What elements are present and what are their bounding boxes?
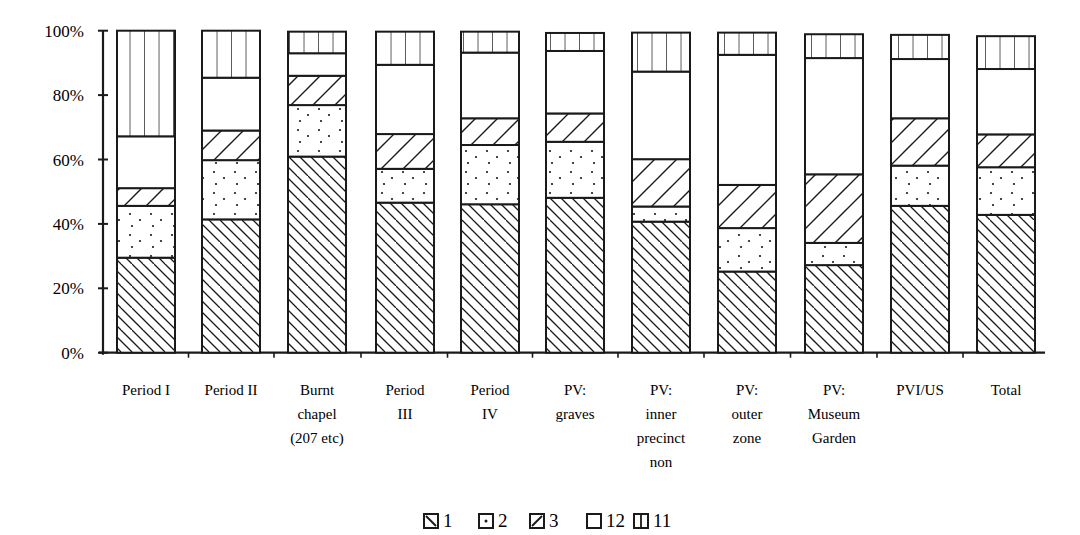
- bar-segment-3: [376, 134, 434, 169]
- y-tick-label: 80%: [53, 86, 84, 105]
- bar-segment-1: [805, 265, 863, 353]
- legend-label: 3: [549, 510, 559, 531]
- bar-stack: [288, 32, 346, 353]
- bar-segment-12: [805, 58, 863, 174]
- dot-swatch-icon: [479, 514, 493, 528]
- y-tick-label: 40%: [53, 215, 84, 234]
- x-category-label: PV:MuseumGarden: [808, 382, 861, 446]
- y-tick-label: 0%: [61, 344, 84, 363]
- x-category-label: Period I: [122, 382, 170, 398]
- bar-segment-12: [632, 72, 690, 160]
- legend-item-3: 3: [530, 510, 559, 531]
- bar-segment-12: [117, 136, 175, 188]
- bar-segment-12: [977, 69, 1035, 134]
- blank-swatch-icon: [587, 514, 601, 528]
- bar-segment-12: [202, 78, 260, 131]
- bar-segment-1: [718, 272, 776, 353]
- bar-segment-11: [546, 33, 604, 51]
- bars: [117, 31, 1035, 353]
- bar-segment-11: [718, 33, 776, 55]
- x-category-label: Period II: [205, 382, 258, 398]
- x-category-label: PeriodIII: [385, 382, 425, 422]
- bar-stack: [376, 32, 434, 353]
- bar-stack: [546, 33, 604, 353]
- bar-segment-2: [805, 243, 863, 265]
- bar-segment-3: [977, 134, 1035, 167]
- bar-segment-2: [202, 160, 260, 219]
- bar-segment-1: [376, 203, 434, 353]
- bar-segment-12: [288, 53, 346, 76]
- x-category-label: Burntchapel(207 etc): [290, 382, 344, 447]
- bar-segment-1: [977, 215, 1035, 353]
- bar-segment-11: [117, 31, 175, 137]
- back-diagonal-swatch-icon: [424, 514, 438, 528]
- legend-label: 12: [606, 510, 625, 531]
- bar-segment-3: [546, 113, 604, 141]
- bar-segment-12: [461, 53, 519, 119]
- bar-segment-1: [461, 204, 519, 352]
- bar-segment-11: [288, 32, 346, 54]
- x-category-label: PeriodIV: [470, 382, 510, 422]
- stacked-bar-chart: 0%20%40%60%80%100% Period IPeriod IIBurn…: [0, 0, 1080, 535]
- bar-segment-3: [891, 118, 949, 165]
- legend-label: 2: [498, 510, 508, 531]
- bar-segment-3: [632, 159, 690, 206]
- x-category-label: PV:graves: [555, 382, 594, 422]
- bar-segment-1: [891, 206, 949, 353]
- bar-segment-11: [891, 35, 949, 59]
- bar-segment-2: [461, 145, 519, 204]
- bar-segment-3: [718, 185, 776, 228]
- x-axis-labels: Period IPeriod IIBurntchapel(207 etc)Per…: [122, 382, 1021, 470]
- bar-segment-2: [288, 105, 346, 157]
- x-category-label: PV:innerprecinctnon: [637, 382, 686, 470]
- legend-item-2: 2: [479, 510, 508, 531]
- bar-segment-3: [805, 174, 863, 243]
- bar-segment-12: [718, 55, 776, 185]
- bar-stack: [461, 32, 519, 353]
- bar-stack: [202, 31, 260, 353]
- bar-segment-11: [977, 36, 1035, 69]
- legend-label: 11: [653, 510, 671, 531]
- bar-segment-1: [632, 222, 690, 353]
- bar-segment-2: [977, 167, 1035, 215]
- bar-segment-12: [891, 59, 949, 118]
- bar-stack: [117, 31, 175, 353]
- bar-segment-2: [718, 228, 776, 271]
- x-category-label: Total: [991, 382, 1022, 398]
- legend-item-1: 1: [424, 510, 453, 531]
- forward-diagonal-swatch-icon: [530, 514, 544, 528]
- legend: 1231211: [424, 510, 671, 531]
- bar-segment-11: [632, 33, 690, 72]
- bar-segment-11: [805, 34, 863, 58]
- bar-segment-2: [546, 142, 604, 198]
- bar-segment-1: [546, 198, 604, 353]
- legend-item-12: 12: [587, 510, 625, 531]
- bar-segment-1: [202, 219, 260, 352]
- bar-stack: [891, 35, 949, 353]
- bar-segment-11: [202, 31, 260, 78]
- bar-segment-11: [376, 32, 434, 65]
- y-tick-label: 60%: [53, 151, 84, 170]
- x-category-label: PV:outerzone: [732, 382, 763, 446]
- vertical-lines-swatch-icon: [634, 514, 648, 528]
- bar-stack: [632, 33, 690, 353]
- bar-segment-2: [632, 207, 690, 222]
- y-tick-label: 20%: [53, 279, 84, 298]
- bar-segment-3: [202, 131, 260, 161]
- bar-segment-2: [117, 206, 175, 258]
- y-tick-label: 100%: [44, 22, 84, 41]
- bar-segment-3: [117, 188, 175, 206]
- bar-segment-2: [376, 169, 434, 203]
- bar-segment-3: [288, 76, 346, 105]
- x-category-label: PVI/US: [896, 382, 944, 398]
- bar-segment-2: [891, 166, 949, 206]
- bar-segment-12: [546, 51, 604, 113]
- bar-segment-12: [376, 65, 434, 134]
- bar-segment-1: [288, 157, 346, 353]
- legend-item-11: 11: [634, 510, 671, 531]
- bar-segment-11: [461, 32, 519, 53]
- bar-stack: [805, 34, 863, 352]
- bar-segment-3: [461, 118, 519, 145]
- bar-stack: [977, 36, 1035, 353]
- bar-segment-1: [117, 258, 175, 353]
